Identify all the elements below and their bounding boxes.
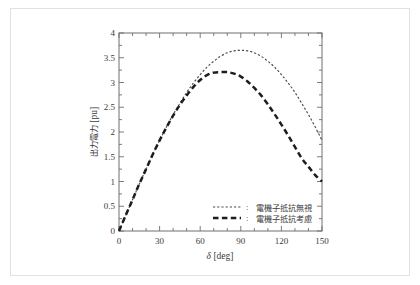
legend-label-armature-resistance-ignored: 電機子抵抗無視 (256, 203, 312, 213)
x-axis-ticks (119, 33, 322, 231)
x-axis-tick-labels: 0306090120150 (117, 236, 330, 246)
x-axis-title: δ [deg] (207, 251, 234, 261)
plot-axes (119, 33, 322, 231)
y-axis-tick-labels: 00.511.522.533.54 (104, 28, 116, 236)
y-axis-ticks (119, 33, 322, 231)
y-tick-label: 2.5 (104, 102, 116, 112)
x-tick-label: 120 (275, 236, 289, 246)
y-tick-label: 0.5 (104, 201, 116, 211)
y-tick-label: 1 (111, 177, 116, 187)
svg-text:出力電力 [pu]: 出力電力 [pu] (89, 107, 99, 157)
legend-separator-2: : (246, 213, 248, 223)
y-axis-title: 出力電力 [pu] (89, 107, 99, 157)
x-tick-label: 90 (236, 236, 246, 246)
y-tick-label: 4 (111, 28, 116, 38)
y-axis-minor-ticks (119, 45, 322, 218)
y-tick-label: 3.5 (104, 53, 116, 63)
legend: : 電機子抵抗無視 : 電機子抵抗考慮 (213, 202, 312, 224)
y-tick-label: 3 (111, 78, 116, 88)
legend-separator-1: : (246, 202, 248, 212)
x-tick-label: 150 (315, 236, 329, 246)
x-tick-label: 30 (155, 236, 165, 246)
x-tick-label: 0 (117, 236, 122, 246)
x-axis-minor-ticks (133, 33, 309, 231)
y-tick-label: 2 (111, 127, 116, 137)
y-tick-label: 1.5 (104, 152, 116, 162)
power-angle-chart: 0306090120150 00.511.522.533.54 δ [deg] … (0, 0, 420, 285)
legend-label-armature-resistance-considered: 電機子抵抗考慮 (256, 214, 312, 224)
y-tick-label: 0 (111, 226, 116, 236)
x-tick-label: 60 (196, 236, 206, 246)
